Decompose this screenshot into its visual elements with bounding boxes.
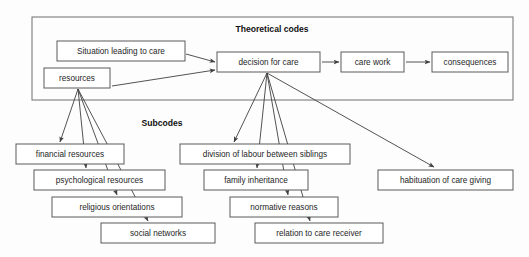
edge-resources-to-decision [112, 70, 215, 86]
diagram-svg: Situation leading to careresourcesdecisi… [0, 0, 529, 257]
node-consequences[interactable]: consequences [432, 52, 508, 72]
node-label-habituation: habituation of care giving [400, 176, 491, 185]
node-financial[interactable]: financial resources [16, 144, 124, 164]
edge-decision-to-division [234, 73, 267, 142]
node-inheritance[interactable]: family inheritance [204, 170, 308, 190]
node-label-financial: financial resources [36, 150, 104, 159]
diagram-canvas: Situation leading to careresourcesdecisi… [0, 0, 529, 257]
node-habituation[interactable]: habituation of care giving [378, 170, 513, 190]
node-label-consequences: consequences [444, 58, 497, 67]
node-label-division: division of labour between siblings [203, 150, 327, 159]
node-label-normative: normative reasons [250, 203, 317, 212]
node-social[interactable]: social networks [101, 223, 215, 243]
node-resources[interactable]: resources [44, 68, 110, 88]
node-label-situation: Situation leading to care [77, 47, 165, 56]
node-layer: Situation leading to careresourcesdecisi… [16, 41, 513, 243]
node-label-inheritance: family inheritance [224, 176, 288, 185]
node-psych[interactable]: psychological resources [34, 170, 165, 190]
node-division[interactable]: division of labour between siblings [180, 144, 350, 164]
node-religious[interactable]: religious orientations [52, 197, 182, 217]
node-label-decision: decision for care [238, 58, 299, 67]
section-label-layer: Theoretical codesSubcodes [141, 24, 308, 128]
edge-layer [60, 54, 434, 221]
node-label-psych: psychological resources [56, 176, 143, 185]
node-label-relation: relation to care receiver [276, 229, 362, 238]
node-label-carework: care work [355, 58, 391, 67]
node-normative[interactable]: normative reasons [230, 197, 338, 217]
node-relation[interactable]: relation to care receiver [255, 223, 383, 243]
node-label-religious: religious orientations [79, 203, 154, 212]
node-label-resources: resources [59, 74, 95, 83]
edge-situation-to-decision [186, 54, 215, 62]
node-label-social: social networks [130, 229, 186, 238]
node-decision[interactable]: decision for care [217, 52, 320, 72]
edge-resources-to-financial [60, 89, 78, 142]
node-situation[interactable]: Situation leading to care [57, 41, 185, 61]
section-label-theoretical: Theoretical codes [235, 24, 308, 34]
section-label-subcodes: Subcodes [141, 118, 182, 128]
node-carework[interactable]: care work [341, 52, 404, 72]
